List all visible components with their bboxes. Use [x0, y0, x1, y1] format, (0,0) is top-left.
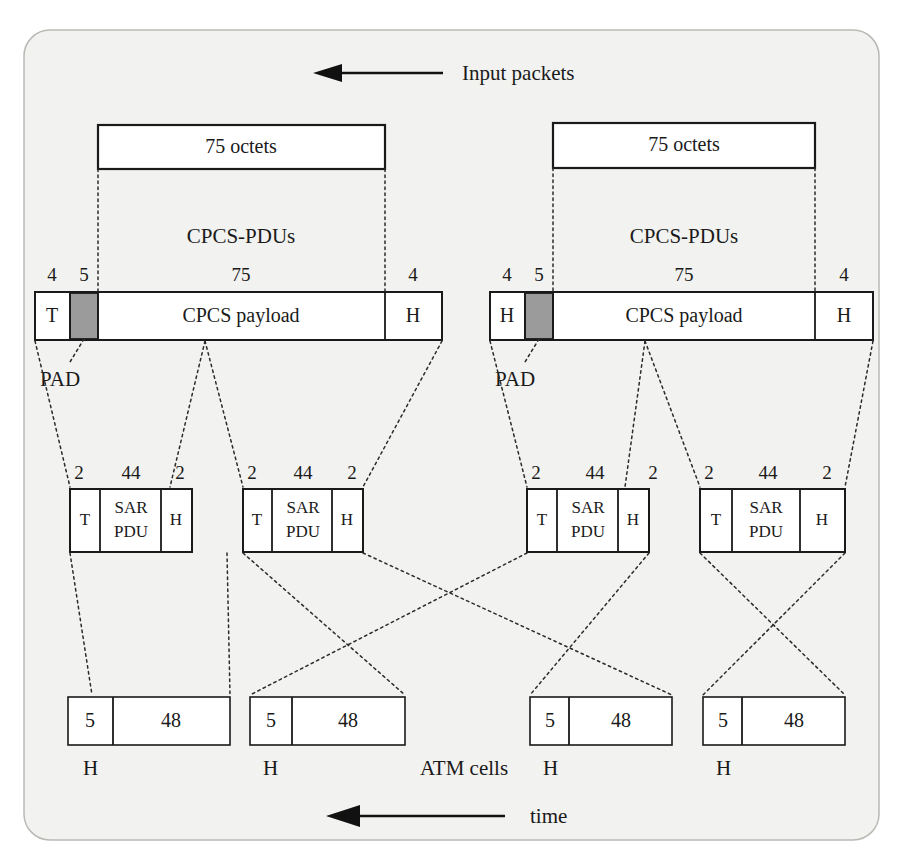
sar-pdu-1: T SAR PDU H: [70, 489, 192, 552]
atm-payload-size-4: 48: [784, 709, 804, 731]
atm-header-size-2: 5: [266, 709, 276, 731]
cpcs-pad-cell-2: [525, 293, 553, 339]
atm-cell-1: 5 48: [68, 697, 230, 745]
input-packet-label-1: 75 octets: [205, 135, 277, 157]
sar-header-cell-1: H: [170, 510, 182, 529]
atm-header-size-1: 5: [85, 709, 95, 731]
cpcs-pdu-2: H CPCS payload H: [490, 292, 873, 340]
sar-trailer-cell-4: T: [711, 510, 722, 529]
sar-trailer-cell-3: T: [537, 510, 548, 529]
atm-cell-3: 5 48: [530, 697, 672, 745]
sar-trailer-cell-2: T: [252, 510, 263, 529]
atm-payload-size-3: 48: [611, 709, 631, 731]
figure-canvas: Input packets 75 octets 75 octets CPCS-P…: [0, 0, 903, 867]
atm-header-letter-2: H: [263, 756, 278, 780]
input-packets-label: Input packets: [462, 61, 575, 85]
sar-payload-line2-1: PDU: [114, 522, 148, 541]
cpcs-size-trailer-2: 4: [502, 264, 512, 285]
sar-size-payload-4: 44: [759, 462, 779, 483]
cpcs-header-cell-1: H: [406, 304, 420, 326]
sar-header-cell-3: H: [627, 510, 639, 529]
cpcs-size-trailer-1: 4: [47, 264, 57, 285]
atm-header-size-4: 5: [718, 709, 728, 731]
sar-size-trailer-3: 2: [531, 462, 541, 483]
input-packet-box-2: 75 octets: [553, 123, 815, 168]
sar-header-cell-4: H: [816, 510, 828, 529]
cpcs-header-cell-2: H: [837, 304, 851, 326]
atm-cells-label: ATM cells: [420, 756, 508, 780]
atm-payload-size-1: 48: [161, 709, 181, 731]
sar-payload-line1-2: SAR: [286, 498, 320, 517]
sar-size-header-1: 2: [175, 462, 185, 483]
cpcs-trailer-cell-2: H: [500, 304, 514, 326]
sar-size-trailer-1: 2: [74, 462, 84, 483]
sar-size-trailer-4: 2: [704, 462, 714, 483]
sar-size-payload-2: 44: [294, 462, 314, 483]
sar-pdu-2: T SAR PDU H: [243, 489, 363, 552]
sar-size-payload-1: 44: [122, 462, 142, 483]
sar-trailer-cell-1: T: [80, 510, 91, 529]
sar-size-header-3: 2: [648, 462, 658, 483]
time-label: time: [530, 804, 567, 828]
cpcs-size-payload-2: 75: [675, 264, 694, 285]
atm-header-letter-3: H: [543, 756, 558, 780]
sar-payload-line2-3: PDU: [571, 522, 605, 541]
sar-pdu-3: T SAR PDU H: [527, 489, 649, 552]
cpcs-size-header-1: 4: [408, 264, 418, 285]
cpcs-trailer-cell-1: T: [46, 304, 58, 326]
sar-payload-line1-1: SAR: [114, 498, 148, 517]
cpcs-payload-cell-1: CPCS payload: [182, 304, 299, 327]
cpcs-pdus-row-label-left: CPCS-PDUs: [187, 224, 296, 248]
atm-payload-size-2: 48: [338, 709, 358, 731]
input-packet-label-2: 75 octets: [648, 133, 720, 155]
cpcs-size-pad-1: 5: [79, 264, 89, 285]
sar-size-trailer-2: 2: [247, 462, 257, 483]
sar-pdu-4: T SAR PDU H: [700, 489, 845, 552]
cpcs-pdus-row-label-right: CPCS-PDUs: [630, 224, 739, 248]
cpcs-size-pad-2: 5: [534, 264, 544, 285]
cpcs-size-header-2: 4: [839, 264, 849, 285]
sar-payload-line1-3: SAR: [571, 498, 605, 517]
atm-cell-4: 5 48: [703, 697, 845, 745]
sar-payload-line2-4: PDU: [749, 522, 783, 541]
cpcs-pdu-1: T CPCS payload H: [35, 292, 442, 340]
sar-header-cell-2: H: [341, 510, 353, 529]
cpcs-size-payload-1: 75: [232, 264, 251, 285]
atm-header-letter-4: H: [716, 756, 731, 780]
atm-header-size-3: 5: [545, 709, 555, 731]
atm-header-letter-1: H: [83, 756, 98, 780]
input-packet-box-1: 75 octets: [98, 125, 385, 169]
sar-payload-line2-2: PDU: [286, 522, 320, 541]
sar-payload-line1-4: SAR: [749, 498, 783, 517]
atm-cell-2: 5 48: [250, 697, 405, 745]
cpcs-pad-cell-1: [70, 293, 98, 339]
pad-label-2: PAD: [495, 367, 535, 391]
cpcs-payload-cell-2: CPCS payload: [625, 304, 742, 327]
sar-size-header-2: 2: [347, 462, 357, 483]
sar-size-payload-3: 44: [586, 462, 606, 483]
sar-size-header-4: 2: [822, 462, 832, 483]
